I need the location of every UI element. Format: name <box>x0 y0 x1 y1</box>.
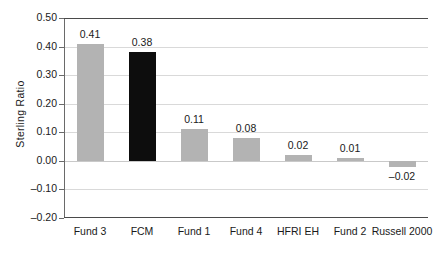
sterling-ratio-bar-chart: Sterling Ratio 0.500.400.300.200.100.00–… <box>0 0 442 253</box>
bar-value-label: –0.02 <box>376 170 428 182</box>
bar <box>233 138 260 161</box>
bar-value-label: 0.01 <box>324 142 376 154</box>
bar <box>389 161 416 167</box>
y-axis-tick-label: –0.10 <box>17 182 57 194</box>
bar-value-label: 0.11 <box>168 113 220 125</box>
y-axis-tick-label: 0.10 <box>17 125 57 137</box>
bar <box>129 52 156 161</box>
y-axis-tick-label: 0.00 <box>17 154 57 166</box>
x-axis-line <box>64 217 428 218</box>
bar <box>337 158 364 161</box>
bar-value-label: 0.02 <box>272 139 324 151</box>
y-axis-tick-label: –0.20 <box>17 211 57 223</box>
x-axis-label: Russell 2000 <box>366 225 438 237</box>
y-axis-tick-label: 0.30 <box>17 68 57 80</box>
bar <box>285 155 312 161</box>
bar <box>181 129 208 160</box>
y-axis-tick-label: 0.20 <box>17 97 57 109</box>
y-axis-tick-label: 0.50 <box>17 11 57 23</box>
bar-value-label: 0.41 <box>64 28 116 40</box>
bar-value-label: 0.08 <box>220 122 272 134</box>
gridline <box>64 75 428 76</box>
bar-value-label: 0.38 <box>116 36 168 48</box>
plot-top-border <box>64 18 428 19</box>
y-axis-tick-mark <box>59 218 64 219</box>
y-axis-tick-label: 0.40 <box>17 40 57 52</box>
plot-area: 0.410.380.110.080.020.01–0.02 <box>64 18 428 218</box>
gridline <box>64 189 428 190</box>
gridline <box>64 104 428 105</box>
y-axis-line <box>64 18 65 218</box>
gridline <box>64 161 428 162</box>
bar <box>77 44 104 161</box>
